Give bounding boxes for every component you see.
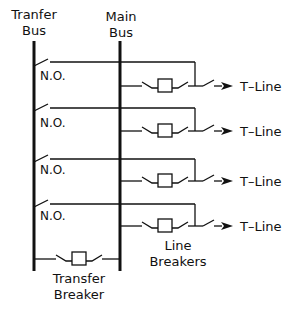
line-breaker-icon [158,79,172,92]
no-label: N.O. [40,69,66,83]
no-switch-icon [34,104,48,111]
line-breaker-icon [158,124,172,137]
bay-2: N.O. T–Line [34,104,282,139]
no-switch-icon [34,200,48,207]
bay-4: N.O. T–Line [34,200,282,234]
line-breaker-icon [158,174,172,187]
main-bus-label-2: Bus [109,25,133,40]
transfer-breaker-label: Transfer [52,271,106,286]
transfer-breaker-icon [72,252,86,265]
transfer-bus-label-2: Bus [22,23,46,38]
arrow-icon [221,222,233,230]
t-line-label: T–Line [239,174,282,189]
arrow-icon [221,127,233,135]
no-switch-icon [34,155,48,162]
bay-3: N.O. T–Line [34,155,282,189]
t-line-label: T–Line [239,219,282,234]
bus-diagram: Tranfer Bus Main Bus N.O. T–Line N.O. T–… [0,0,299,313]
line-breakers-label-2: Breakers [149,254,206,269]
t-line-label: T–Line [239,79,282,94]
line-breakers-label: Line [164,238,191,253]
line-breaker-icon [158,219,172,232]
arrow-icon [221,82,233,90]
bay-1: N.O. T–Line [34,59,282,94]
no-label: N.O. [40,209,66,223]
no-switch-icon [34,59,48,66]
transfer-bus-label: Tranfer [10,7,57,22]
arrow-icon [221,177,233,185]
no-label: N.O. [40,163,66,177]
transfer-breaker [34,252,120,265]
main-bus-label: Main [105,9,136,24]
no-label: N.O. [40,116,66,130]
t-line-label: T–Line [239,124,282,139]
transfer-breaker-label-2: Breaker [54,287,105,302]
